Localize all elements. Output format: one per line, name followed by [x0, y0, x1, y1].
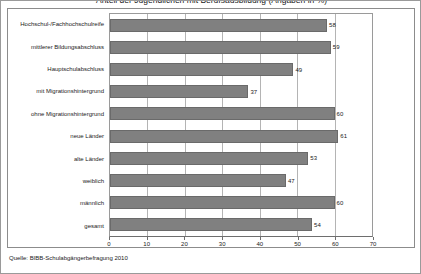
chart-page: Anteil der Jugendlichen mit Berufsausbil… — [0, 0, 421, 274]
x-tick-mark — [184, 237, 185, 240]
category-label: männlich — [12, 192, 107, 214]
category-label: weiblich — [12, 170, 107, 192]
x-tick-mark — [109, 237, 110, 240]
bar-value-label: 61 — [340, 133, 347, 139]
bar-row: 37 — [110, 81, 372, 103]
category-label: mittlerer Bildungsabschluss — [12, 35, 107, 57]
bar-row: 60 — [110, 192, 372, 214]
source-note: Quelle: BIBB-Schulabgängerbefragung 2010 — [9, 255, 128, 261]
x-tick-mark — [373, 237, 374, 240]
x-tick-label: 40 — [257, 241, 264, 247]
bar-value-label: 37 — [250, 89, 257, 95]
chart-title-clipped: Anteil der Jugendlichen mit Berufsausbil… — [1, 1, 421, 7]
category-label: Hochschul-/Fachhochschulreife — [12, 13, 107, 35]
bar-row: 47 — [110, 169, 372, 191]
category-label: alte Länder — [12, 147, 107, 169]
x-tick-label: 30 — [219, 241, 226, 247]
category-label: mit Migrationshintergrund — [12, 80, 107, 102]
x-tick-mark — [260, 237, 261, 240]
category-label: Hauptschulabschluss — [12, 58, 107, 80]
bar-value-label: 47 — [288, 178, 295, 184]
chart-frame: Hochschul-/Fachhochschulreifemittlerer B… — [7, 8, 415, 248]
x-tick-mark — [147, 237, 148, 240]
bar-value-label: 49 — [295, 67, 302, 73]
bar-row: 54 — [110, 214, 372, 236]
x-tick-label: 20 — [181, 241, 188, 247]
bar: 47 — [110, 174, 286, 187]
bar: 61 — [110, 130, 338, 143]
bar-rows: 58594937606153476054 — [110, 14, 372, 236]
bar: 49 — [110, 63, 293, 76]
bar-row: 49 — [110, 58, 372, 80]
bar-row: 59 — [110, 36, 372, 58]
chart-title-text: Anteil der Jugendlichen mit Berufsausbil… — [1, 1, 421, 5]
x-tick-label: 10 — [143, 241, 150, 247]
x-tick-label: 70 — [370, 241, 377, 247]
bar-row: 61 — [110, 125, 372, 147]
x-tick-mark — [335, 237, 336, 240]
bar-value-label: 60 — [337, 111, 344, 117]
bar-row: 60 — [110, 103, 372, 125]
x-tick-label: 0 — [107, 241, 110, 247]
x-tick-label: 60 — [332, 241, 339, 247]
category-label: gesamt — [12, 215, 107, 237]
plot-area: 58594937606153476054 — [109, 13, 373, 237]
bar-row: 53 — [110, 147, 372, 169]
bar: 60 — [110, 107, 335, 120]
category-label: ohne Migrationshintergrund — [12, 103, 107, 125]
x-tick-mark — [298, 237, 299, 240]
category-label: neue Länder — [12, 125, 107, 147]
bar: 60 — [110, 196, 335, 209]
bar-row: 58 — [110, 14, 372, 36]
bar: 59 — [110, 41, 331, 54]
bar-value-label: 53 — [310, 155, 317, 161]
bar: 58 — [110, 19, 327, 32]
x-tick-label: 50 — [294, 241, 301, 247]
bar-value-label: 54 — [314, 222, 321, 228]
bar-value-label: 58 — [329, 22, 336, 28]
bar: 54 — [110, 218, 312, 231]
bar: 37 — [110, 85, 248, 98]
x-tick-mark — [222, 237, 223, 240]
bar-value-label: 59 — [333, 44, 340, 50]
x-axis: 010203040506070 — [109, 237, 373, 251]
bar: 53 — [110, 152, 308, 165]
category-axis-labels: Hochschul-/Fachhochschulreifemittlerer B… — [12, 13, 107, 237]
bar-value-label: 60 — [337, 200, 344, 206]
